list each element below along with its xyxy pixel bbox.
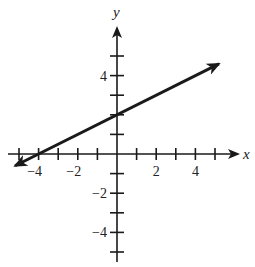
y-tick-label: −2: [92, 186, 107, 201]
plot-svg: −4−2244−2−4 x y: [0, 0, 255, 267]
x-axis-label: x: [242, 146, 250, 162]
y-axis-label: y: [111, 4, 120, 20]
x-tick-label: 4: [192, 164, 199, 179]
x-tick-label: −2: [66, 164, 81, 179]
axes: [8, 28, 238, 262]
y-tick-label: −4: [92, 225, 107, 240]
y-tick-label: 4: [100, 69, 107, 84]
x-tick-label: −4: [27, 164, 42, 179]
coordinate-plane: −4−2244−2−4 x y: [0, 0, 255, 267]
x-tick-label: 2: [153, 164, 160, 179]
